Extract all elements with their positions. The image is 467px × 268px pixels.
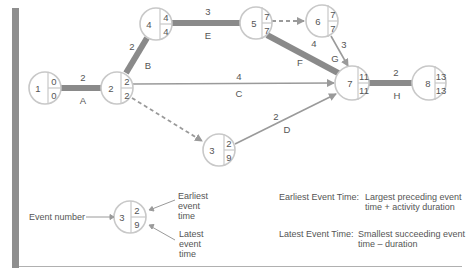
activity-H-label: H: [394, 90, 401, 101]
node-5-earliest: 7: [264, 11, 269, 22]
legend-node-latest: 9: [134, 219, 139, 230]
node-2-number: 2: [108, 83, 113, 94]
node-6-earliest: 7: [330, 9, 335, 20]
activity-D-duration: 2: [273, 111, 278, 122]
node-3-latest: 9: [226, 152, 231, 163]
node-8-latest: 13: [436, 85, 447, 96]
legend-node-number: 3: [119, 212, 124, 223]
node-1-latest: 0: [51, 90, 56, 101]
activity-B-duration: 2: [129, 41, 134, 52]
activity-C-arrow: [133, 83, 334, 84]
legend-latest-label: Latest event time: [179, 229, 204, 259]
activity-F-bar: [267, 35, 340, 74]
node-7-earliest: 11: [359, 71, 369, 82]
node-3-earliest: 2: [226, 138, 231, 149]
activity-A-label: A: [80, 95, 86, 106]
activity-B-label: B: [145, 60, 151, 71]
activity-C-label: C: [236, 88, 243, 99]
node-8-number: 8: [425, 78, 430, 89]
definition-earliest-term: Earliest Event Time:: [279, 192, 359, 202]
definition-earliest-text: Largest preceding event time + activity …: [365, 192, 462, 212]
node-7-latest: 11: [359, 85, 369, 96]
node-4-earliest: 4: [163, 12, 168, 23]
activity-E-duration: 3: [205, 6, 210, 17]
node-6-latest: 7: [330, 23, 335, 34]
node-2-latest: 2: [124, 90, 129, 101]
node-5-latest: 7: [264, 25, 269, 36]
node-4-number: 4: [146, 19, 151, 30]
legend-node-earliest: 2: [134, 205, 139, 216]
node-5-number: 5: [251, 18, 256, 29]
definition-latest-term: Latest Event Time:: [279, 229, 354, 239]
node-8-earliest: 13: [436, 71, 447, 82]
activity-F-duration: 4: [311, 38, 316, 49]
network-diagram: [0, 0, 467, 268]
node-7-number: 7: [347, 78, 352, 89]
node-4-latest: 4: [163, 26, 168, 37]
activity-F-label: F: [297, 57, 303, 68]
definition-latest-text: Smallest succeeding event time – duratio…: [358, 229, 465, 249]
activity-D-label: D: [284, 124, 291, 135]
activity-H-duration: 2: [393, 67, 398, 78]
activity-G-duration: 3: [341, 39, 346, 50]
node-3-number: 3: [209, 145, 214, 156]
dummy-2-3-arrow: [132, 98, 202, 141]
activity-C-duration: 4: [236, 71, 241, 82]
legend-event-number-label: Event number: [29, 212, 85, 222]
activity-D-arrow: [235, 94, 336, 144]
node-2-earliest: 2: [124, 76, 129, 87]
activity-G-label: G: [331, 53, 338, 64]
activity-E-label: E: [205, 30, 211, 41]
legend-earliest-label: Earliest event time: [178, 191, 208, 221]
node-6-number: 6: [315, 16, 320, 27]
node-1-number: 1: [35, 83, 40, 94]
node-1-earliest: 0: [51, 76, 56, 87]
activity-A-duration: 2: [80, 72, 85, 83]
